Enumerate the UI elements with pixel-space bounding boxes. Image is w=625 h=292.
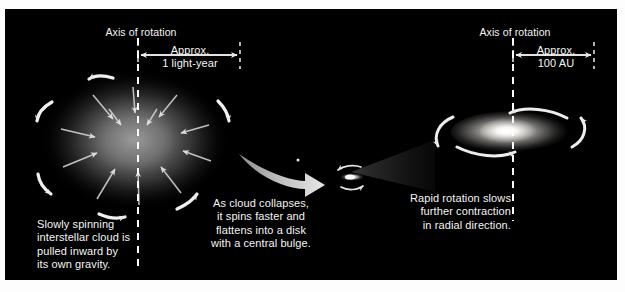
interstellar-cloud-graphic	[40, 70, 230, 210]
axis-title-right: Axis of rotation	[445, 26, 585, 39]
caption-left: Slowly spinning interstellar cloud is pu…	[37, 218, 147, 272]
caption-right: Rapid rotation slows further contraction…	[393, 192, 511, 232]
axis-title-left: Axis of rotation	[71, 26, 211, 39]
caption-middle: As cloud collapses, it spins faster and …	[191, 197, 331, 251]
dimension-label-right: Approx. 100 AU	[521, 44, 591, 71]
star-formation-figure: Axis of rotation Approx. 1 light-year Sl…	[0, 0, 625, 292]
field-star	[297, 159, 300, 162]
transition-arrow	[239, 154, 325, 197]
collapsing-disk-graphic	[339, 173, 365, 181]
diagram-panel: Axis of rotation Approx. 1 light-year Sl…	[5, 9, 617, 280]
zoom-cone	[351, 140, 435, 192]
dimension-label-left: Approx. 1 light-year	[147, 44, 233, 71]
